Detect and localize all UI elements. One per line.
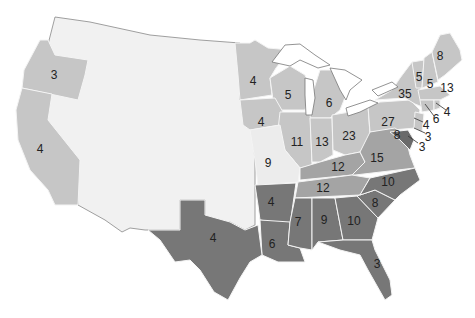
label-new-hampshire: 5	[427, 77, 434, 91]
label-delaware: 3	[425, 130, 432, 144]
label-louisiana: 6	[269, 237, 276, 251]
label-texas: 4	[210, 231, 217, 245]
label-north-carolina: 10	[381, 175, 395, 189]
label-minnesota: 4	[250, 74, 257, 88]
label-michigan: 6	[326, 96, 333, 110]
label-south-carolina: 8	[372, 196, 379, 210]
label-arkansas: 4	[268, 195, 275, 209]
label-maine: 8	[437, 49, 444, 63]
label-new-york: 35	[398, 87, 412, 101]
label-massachusetts: 13	[440, 81, 454, 95]
state-arkansas	[255, 183, 296, 225]
label-tennessee: 12	[316, 181, 330, 195]
label-maryland: 3	[419, 140, 426, 154]
label-vermont: 5	[416, 70, 423, 84]
label-missouri: 9	[265, 156, 272, 170]
label-alabama: 9	[321, 213, 328, 227]
label-pennsylvania: 27	[381, 115, 395, 129]
label-virginia: 15	[370, 151, 384, 165]
label-connecticut: 6	[433, 112, 440, 126]
electoral-map: 3 4 4 5 6 4 11 13 23 27 35 5 5 8 13 4 6 …	[0, 0, 475, 318]
label-georgia: 10	[347, 214, 361, 228]
state-florida	[318, 240, 392, 300]
label-california: 4	[37, 142, 44, 156]
label-kentucky: 12	[331, 160, 345, 174]
label-florida: 3	[374, 257, 381, 271]
label-ohio: 23	[342, 129, 356, 143]
label-illinois: 11	[291, 135, 304, 149]
label-maryland-inner: 8	[394, 128, 401, 142]
label-mississippi: 7	[295, 215, 302, 229]
label-indiana: 13	[315, 135, 329, 149]
label-wisconsin: 5	[285, 88, 292, 102]
label-iowa: 4	[258, 115, 265, 129]
label-rhode-island: 4	[444, 105, 451, 119]
lake-superior	[272, 44, 330, 68]
label-oregon: 3	[51, 68, 58, 82]
